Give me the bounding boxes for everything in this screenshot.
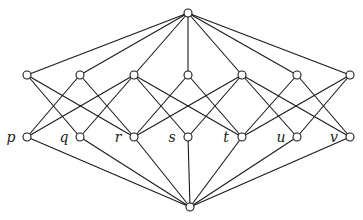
- lower-node-r: [130, 133, 138, 141]
- edge-top-a5: [188, 13, 242, 75]
- node-label-p: p: [7, 129, 16, 145]
- lower-node-p: [23, 133, 31, 141]
- edge-t-bottom: [190, 137, 242, 207]
- edge-top-a1: [27, 13, 188, 75]
- bottom-node: [186, 203, 194, 211]
- lower-node-t: [238, 133, 246, 141]
- lower-node-s: [184, 133, 192, 141]
- edge-u-bottom: [190, 137, 297, 207]
- upper-node-a7: [346, 71, 354, 79]
- edge-p-bottom: [27, 137, 190, 207]
- edge-top-a3: [134, 13, 188, 75]
- node-label-u: u: [276, 129, 285, 145]
- edge-top-a7: [188, 13, 350, 75]
- node-label-r: r: [115, 129, 123, 145]
- lower-node-q: [76, 133, 84, 141]
- edge-v-bottom: [190, 137, 350, 207]
- upper-node-a3: [130, 71, 138, 79]
- edge-top-a2: [80, 13, 188, 75]
- edges-group: [27, 13, 350, 207]
- upper-node-a4: [184, 71, 192, 79]
- lattice-diagram: pqrstuv: [0, 0, 363, 220]
- upper-node-a5: [238, 71, 246, 79]
- node-label-q: q: [60, 129, 69, 145]
- node-label-v: v: [330, 129, 338, 145]
- edge-r-bottom: [134, 137, 190, 207]
- node-label-t: t: [223, 129, 229, 145]
- edge-top-a6: [188, 13, 297, 75]
- edge-s-bottom: [188, 137, 190, 207]
- upper-node-a1: [23, 71, 31, 79]
- edge-q-bottom: [80, 137, 190, 207]
- lower-node-u: [293, 133, 301, 141]
- node-label-s: s: [168, 129, 175, 145]
- upper-node-a6: [293, 71, 301, 79]
- lower-node-v: [346, 133, 354, 141]
- top-node: [184, 9, 192, 17]
- upper-node-a2: [76, 71, 84, 79]
